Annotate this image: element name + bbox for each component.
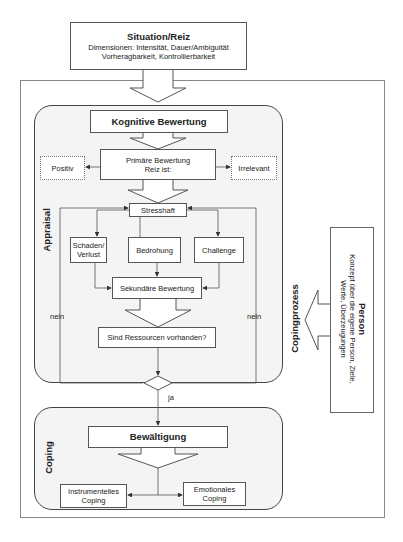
nein-right-label: nein [247, 312, 261, 321]
appraisal-section-label: Appraisal [41, 212, 52, 252]
primaere-bewertung-box: Primäre Bewertung Reiz ist: [100, 149, 216, 180]
bewaeltigung-box: Bewältigung [88, 426, 228, 448]
emot-coping-label: Coping [203, 494, 227, 503]
emotionales-label: Emotionales [194, 485, 235, 494]
situation-dimensions-2: Vorheragbarkeit, Kontrollierbarkeit [102, 52, 215, 61]
situation-dimensions: Dimensionen: Intensität, Dauer/Ambiguitä… [88, 43, 229, 52]
stresshaft-box: Stresshaft [129, 203, 187, 217]
irrelevant-box: Irrelevant [231, 156, 277, 180]
positiv-box: Positiv [40, 156, 85, 180]
instr-coping-label: Coping [82, 496, 106, 505]
instrumentelles-label: Instrumentelles [68, 487, 119, 496]
nein-left-label: nein [50, 312, 64, 321]
instrumentelles-coping-box: Instrumentelles Coping [60, 484, 127, 508]
person-values: Werte, Überzeugungen [339, 227, 348, 411]
verlust-label: Verlust [77, 250, 100, 259]
person-content: Person Konzept über die eigene Person, Z… [336, 227, 368, 411]
ja-label: ja [168, 393, 174, 402]
kognitive-bewertung-box: Kognitive Bewertung [90, 110, 228, 133]
schaden-verlust-box: Schaden/ Verlust [70, 237, 107, 263]
copingprozess-label: Copingprozess [289, 279, 300, 359]
sekundaere-bewertung-box: Sekundäre Bewertung [112, 277, 202, 299]
situation-title: Situation/Reiz [127, 31, 190, 42]
ressourcen-box: Sind Ressourcen vorhanden? [98, 327, 216, 348]
situation-box: Situation/Reiz Dimensionen: Intensität, … [70, 22, 247, 70]
coping-section-label: Coping [43, 440, 54, 476]
reiz-ist-label: Reiz ist: [145, 165, 172, 174]
emotionales-coping-box: Emotionales Coping [183, 482, 246, 506]
challenge-box: Challenge [194, 237, 244, 263]
bedrohung-box: Bedrohung [128, 237, 181, 263]
person-title: Person [357, 227, 368, 411]
schaden-label: Schaden/ [73, 241, 105, 250]
person-concept: Konzept über die eigene Person, Ziele, [348, 227, 357, 411]
primaere-bewertung-label: Primäre Bewertung [126, 156, 190, 165]
